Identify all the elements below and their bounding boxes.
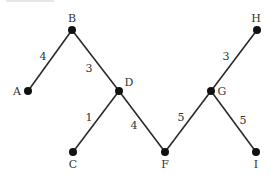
edge-weight-a-b: 4 <box>40 50 47 63</box>
node-label-i: I <box>254 158 258 171</box>
edge-g-i <box>211 91 256 152</box>
node-label-d: D <box>125 76 134 89</box>
cropped-caption-residue <box>6 0 54 2</box>
edge-weight-d-f: 4 <box>131 119 138 132</box>
node-i <box>252 148 260 156</box>
edge-weight-f-g: 5 <box>178 111 185 124</box>
edge-weight-d-c: 1 <box>86 111 93 124</box>
edge-weight-b-d: 3 <box>86 62 93 75</box>
edge-g-h <box>211 30 257 91</box>
node-b <box>68 26 76 34</box>
edge-b-d <box>72 30 119 91</box>
node-labels-layer: ABCDFGHI <box>12 12 261 171</box>
edge-f-g <box>165 91 211 152</box>
node-d <box>115 87 123 95</box>
node-label-h: H <box>251 12 261 25</box>
node-a <box>24 87 32 95</box>
node-g <box>207 87 215 95</box>
edge-weights-layer: 4314535 <box>40 50 247 132</box>
node-label-f: F <box>161 158 169 171</box>
node-label-a: A <box>12 85 22 98</box>
node-label-b: B <box>68 12 76 25</box>
edge-weight-g-i: 5 <box>240 114 247 127</box>
edge-a-b <box>28 30 72 91</box>
node-c <box>69 148 77 156</box>
edge-d-c <box>73 91 119 152</box>
weighted-tree-diagram: 4314535 ABCDFGHI <box>0 0 269 175</box>
edge-weight-g-h: 3 <box>223 50 230 63</box>
node-label-g: G <box>218 85 227 98</box>
node-h <box>253 26 261 34</box>
node-f <box>161 148 169 156</box>
node-label-c: C <box>69 158 77 171</box>
edge-d-f <box>119 91 165 152</box>
